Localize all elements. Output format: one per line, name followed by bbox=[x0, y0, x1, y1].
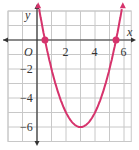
svg-text:−2: −2 bbox=[20, 62, 33, 76]
origin-label: O bbox=[24, 45, 33, 59]
svg-text:−4: −4 bbox=[20, 91, 33, 105]
svg-text:2: 2 bbox=[63, 45, 69, 59]
y-axis-label: y bbox=[24, 8, 31, 22]
parabola-chart: x y O 246−2−4−6 bbox=[0, 0, 139, 150]
tick-labels: 246−2−4−6 bbox=[20, 45, 127, 134]
x-axis-label: x bbox=[126, 25, 133, 39]
svg-text:6: 6 bbox=[121, 45, 127, 59]
svg-text:4: 4 bbox=[92, 45, 98, 59]
svg-text:−6: −6 bbox=[20, 120, 33, 134]
